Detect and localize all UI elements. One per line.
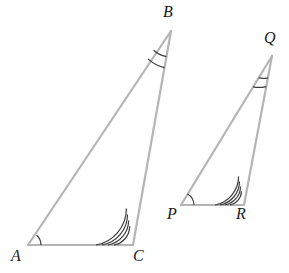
vertex-label-q: Q (264, 30, 276, 46)
angle-mark-p (188, 194, 194, 205)
geometry-canvas (0, 0, 289, 273)
triangle-abc (28, 31, 171, 245)
triangle-pqr (181, 56, 272, 205)
vertex-label-b: B (163, 4, 173, 20)
segment-bc (133, 31, 171, 245)
angle-mark-a (37, 235, 41, 245)
angle-mark-c (96, 209, 130, 246)
geometry-figure: A B C P Q R (0, 0, 289, 273)
vertex-label-r: R (236, 206, 246, 222)
angle-mark-r (215, 177, 241, 205)
vertex-label-a: A (11, 248, 21, 264)
angle-mark-b (148, 50, 167, 67)
vertex-label-p: P (167, 206, 177, 222)
segment-ab (28, 31, 171, 245)
vertex-label-c: C (133, 248, 144, 264)
